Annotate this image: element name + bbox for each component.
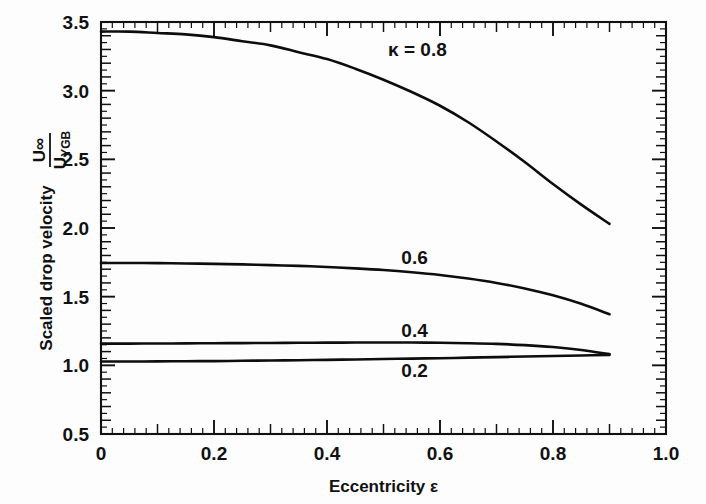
fraction-numerator: U∞ — [30, 138, 49, 162]
curve-label-0-2: 0.2 — [401, 360, 427, 381]
x-tick-label: 1.0 — [653, 443, 679, 464]
y-tick-label: 2.0 — [63, 218, 89, 239]
curve-label-0-6: 0.6 — [401, 247, 427, 268]
x-axis-title: Eccentricity ε — [329, 477, 438, 496]
curve-label-0-4: 0.4 — [401, 320, 428, 341]
y-tick-label: 3.0 — [63, 81, 89, 102]
curve-0-4 — [101, 343, 610, 355]
chart-plot: 00.20.40.60.81.00.51.01.52.02.53.03.5Ecc… — [0, 0, 706, 504]
x-tick-label: 0.2 — [201, 443, 227, 464]
y-tick-label: 3.5 — [63, 12, 90, 33]
curve--0-8 — [101, 32, 610, 224]
plot-frame — [101, 22, 666, 434]
curve-label--0-8: κ = 0.8 — [388, 39, 447, 60]
y-tick-label: 1.0 — [63, 355, 89, 376]
x-tick-label: 0 — [96, 443, 107, 464]
svg-text:Scaled drop velocity: Scaled drop velocity — [37, 185, 56, 351]
y-tick-label: 1.5 — [63, 287, 90, 308]
curve-0-2 — [101, 355, 610, 362]
y-axis-fraction: U∞UYGB — [30, 131, 73, 170]
x-tick-label: 0.6 — [427, 443, 453, 464]
figure-container: 00.20.40.60.81.00.51.01.52.02.53.03.5Ecc… — [0, 0, 706, 504]
fraction-denominator: UYGB — [51, 131, 73, 170]
x-tick-label: 0.4 — [314, 443, 341, 464]
x-tick-label: 0.8 — [540, 443, 566, 464]
y-axis-title: Scaled drop velocity — [37, 185, 56, 351]
curve-0-6 — [101, 263, 610, 314]
y-tick-label: 0.5 — [63, 424, 90, 445]
